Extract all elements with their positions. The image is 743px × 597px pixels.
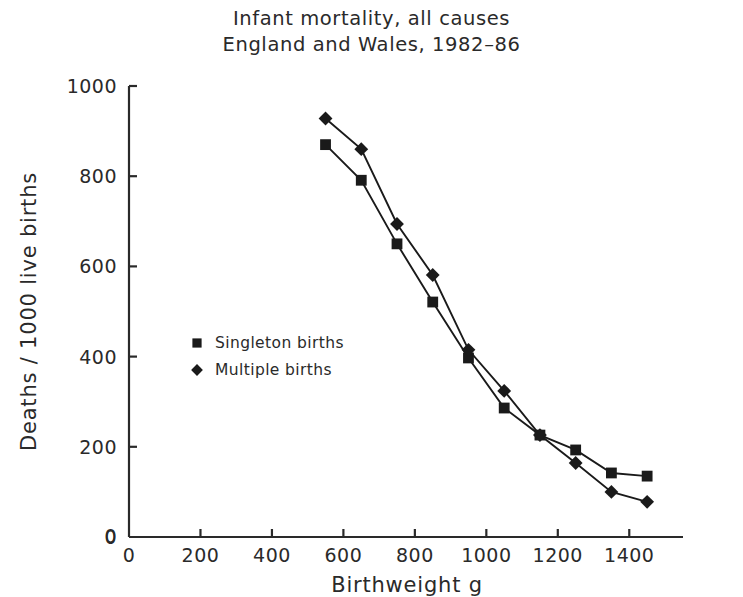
- x-tick-labels: 0200400600800100012001400: [123, 544, 655, 566]
- data-point: [392, 238, 403, 249]
- legend-label: Singleton births: [215, 334, 344, 352]
- data-point: [320, 139, 331, 150]
- data-point: [426, 268, 440, 282]
- x-tick-label: 0: [123, 544, 136, 566]
- y-tick-labels: 02004006008001000: [67, 75, 117, 548]
- legend-label: Multiple births: [215, 361, 332, 379]
- x-tick-label: 800: [396, 544, 434, 566]
- data-point: [427, 297, 438, 308]
- plot-area: 02004006008001000 0200400600800100012001…: [0, 0, 743, 597]
- y-tick-label: 400: [79, 346, 117, 368]
- y-axis-title: Deaths / 1000 live births: [17, 172, 41, 451]
- y-tick-label: 200: [79, 436, 117, 458]
- x-tick-label: 1000: [461, 544, 511, 566]
- data-point: [499, 403, 510, 414]
- x-tick-label: 400: [253, 544, 291, 566]
- y-tick-label: 800: [79, 165, 117, 187]
- x-tick-label: 600: [325, 544, 363, 566]
- data-series: [319, 112, 654, 509]
- data-point: [606, 468, 617, 479]
- data-point: [356, 175, 367, 186]
- axes: [129, 86, 683, 537]
- series-singleton: [320, 139, 652, 481]
- series-multiple: [319, 112, 654, 509]
- x-tick-label: 200: [182, 544, 220, 566]
- legend-marker-diamond: [191, 364, 203, 376]
- chart-legend: Singleton birthsMultiple births: [191, 334, 344, 379]
- data-point: [390, 217, 404, 231]
- data-point: [642, 471, 653, 482]
- data-point: [570, 445, 581, 456]
- x-tick-label: 1200: [533, 544, 583, 566]
- data-point: [640, 495, 654, 509]
- x-tick-label: 1400: [604, 544, 654, 566]
- x-axis-title: Birthweight g: [331, 573, 483, 597]
- legend-marker-square: [192, 338, 201, 347]
- y-tick-label: 600: [79, 255, 117, 277]
- tick-marks: [129, 86, 629, 537]
- y-tick-label: 1000: [67, 75, 117, 97]
- origin-zero-label: 0: [104, 525, 117, 547]
- chart-figure: Infant mortality, all causes England and…: [0, 0, 743, 597]
